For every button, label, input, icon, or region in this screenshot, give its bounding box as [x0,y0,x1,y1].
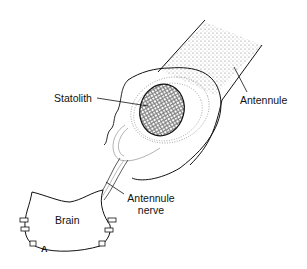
antennule-nerve-label-line2: nerve [126,204,176,216]
antennule-nerve-label-line1: Antennule [126,192,176,204]
statolith-shape [134,79,190,141]
antennule-label: Antennule [240,94,287,106]
diagram-drawing [0,0,307,269]
antennule-leader-line [234,67,247,92]
antennule-nerve-label: Antennule nerve [126,192,176,216]
statolith-leader-line [97,98,148,106]
statolith-label: Statolith [54,92,92,104]
antennule-nerve-leader-line [106,182,124,194]
statocyst-diagram: Statolith Antennule Antennule nerve Brai… [0,0,307,269]
brain-label: Brain [55,214,80,226]
figure-letter: A [41,244,48,254]
